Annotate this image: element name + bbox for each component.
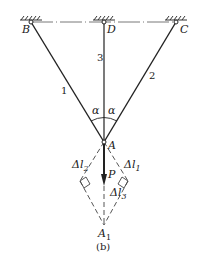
label-alpha-left: α: [92, 104, 100, 117]
label-dl1: Δl1: [123, 158, 141, 173]
label-c: C: [180, 23, 189, 36]
ceiling-support-b: [20, 16, 42, 20]
truss-diagram: B D C 3 1 2 α α A P Δl2 Δl1 Δl3 A1 (b): [0, 0, 199, 258]
pin-c: [174, 20, 178, 24]
label-alpha-right: α: [108, 104, 116, 117]
label-rod-1: 1: [61, 85, 67, 96]
label-p: P: [107, 168, 116, 181]
label-a: A: [107, 139, 116, 152]
figure-caption: (b): [96, 241, 110, 252]
dl2-dashed-ext: [80, 142, 104, 181]
pin-d: [102, 20, 106, 24]
label-dl2: Δl2: [71, 158, 89, 173]
rod-2: [104, 22, 176, 142]
pin-a: [102, 140, 106, 144]
label-a1: A1: [97, 227, 111, 242]
label-b: B: [21, 23, 30, 36]
label-rod-2: 2: [149, 70, 155, 81]
rod-1: [31, 22, 104, 142]
label-rod-3: 3: [97, 52, 103, 63]
ceiling-support-d: [93, 16, 115, 20]
load-arrow-head: [101, 174, 107, 186]
label-d: D: [106, 23, 116, 36]
ceiling-support-c: [165, 16, 187, 20]
